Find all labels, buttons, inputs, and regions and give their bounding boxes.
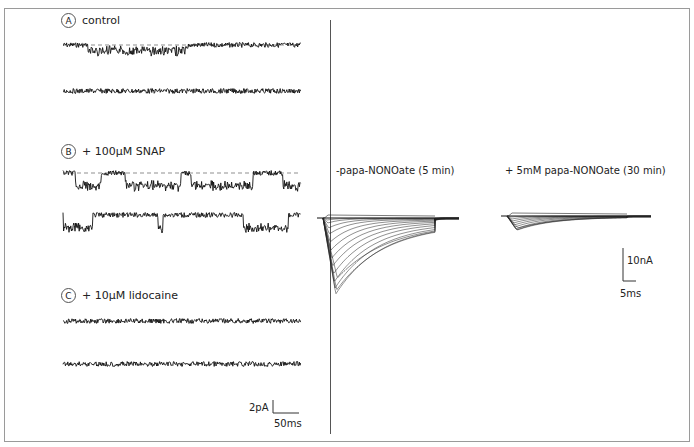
left-scale-x: 50ms — [274, 418, 302, 429]
trace-a2 — [63, 82, 301, 102]
right-scale-y: 10nA — [627, 255, 653, 266]
right-panel-2-title: + 5mM papa-NONOate (30 min) — [505, 165, 666, 176]
trace-c1 — [63, 312, 301, 332]
panel-letter-a: A — [61, 13, 76, 28]
panel-b-title: + 100µM SNAP — [82, 145, 165, 158]
trace-a1 — [63, 36, 301, 56]
current-family-2 — [495, 190, 675, 250]
panel-b-label: B + 100µM SNAP — [61, 144, 165, 159]
panel-a-title: control — [82, 14, 120, 27]
current-family-1 — [315, 180, 465, 300]
panel-letter-b: B — [61, 144, 76, 159]
panel-c-label: C + 10µM lidocaine — [61, 288, 178, 303]
panel-a-label: A control — [61, 13, 120, 28]
panel-c-title: + 10µM lidocaine — [82, 289, 178, 302]
right-scale-bar — [622, 248, 642, 288]
panel-letter-c: C — [61, 288, 76, 303]
trace-c2 — [63, 355, 301, 375]
right-panel-1-title: -papa-NONOate (5 min) — [336, 165, 454, 176]
right-scale-x: 5ms — [620, 288, 641, 299]
left-scale-bar — [272, 400, 302, 420]
trace-b2 — [63, 208, 301, 242]
left-scale-y: 2pA — [249, 402, 269, 413]
trace-b1 — [63, 166, 301, 200]
